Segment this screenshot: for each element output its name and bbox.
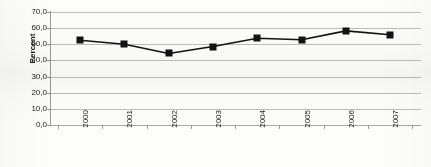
data-point-marker bbox=[298, 36, 305, 43]
x-axis-tick-label: 2000 bbox=[80, 110, 90, 144]
data-point-marker bbox=[387, 31, 394, 38]
chart-screenshot: Percent 70,060,050,040,030,020,010,00,0 … bbox=[0, 0, 431, 167]
y-axis-tick-label: 70,0 bbox=[14, 8, 47, 16]
y-axis-tick-label: 10,0 bbox=[14, 105, 47, 113]
y-axis-tick-label: 0,0 bbox=[14, 121, 47, 129]
y-axis-tick-label: 50,0 bbox=[14, 40, 47, 48]
series-line bbox=[50, 12, 421, 125]
x-axis-tick-label: 2006 bbox=[346, 110, 356, 144]
data-point-marker bbox=[165, 50, 172, 57]
x-axis-tick-label: 2003 bbox=[213, 110, 223, 144]
data-point-marker bbox=[121, 41, 128, 48]
y-axis-tick-label: 60,0 bbox=[14, 24, 47, 32]
x-axis-tick-label: 2007 bbox=[390, 110, 400, 144]
x-axis-tick-labels: 20002001200220032004200520062007 bbox=[50, 127, 421, 167]
plot-area bbox=[50, 12, 421, 125]
y-axis-tick-label: 30,0 bbox=[14, 73, 47, 81]
y-axis-tickmark bbox=[47, 125, 51, 126]
data-point-marker bbox=[342, 27, 349, 34]
x-axis-tick-label: 2005 bbox=[302, 110, 312, 144]
x-axis-tick-label: 2002 bbox=[169, 110, 179, 144]
y-axis-tick-label: 20,0 bbox=[14, 89, 47, 97]
data-point-marker bbox=[254, 35, 261, 42]
y-axis-tick-labels: 70,060,050,040,030,020,010,00,0 bbox=[14, 0, 47, 167]
x-axis-tick-label: 2001 bbox=[124, 110, 134, 144]
data-point-marker bbox=[210, 43, 217, 50]
x-axis-tick-label: 2004 bbox=[257, 110, 267, 144]
y-axis-tick-label: 40,0 bbox=[14, 56, 47, 64]
data-point-marker bbox=[77, 37, 84, 44]
